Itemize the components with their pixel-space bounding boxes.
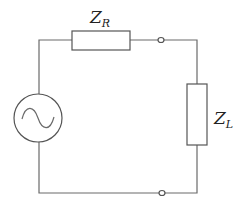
wire-left-top [39,40,72,94]
wire-right-bottom [39,142,197,193]
label-zr: ZR [90,9,110,29]
circuit-diagram [0,0,240,202]
impedance-zr [72,31,130,50]
label-zl-sub: L [226,118,233,131]
label-zl-main: Z [214,108,226,128]
label-zr-sub: R [102,17,110,30]
label-zr-main: Z [90,7,102,27]
label-zl: ZL [214,110,233,130]
terminal-top [158,38,164,43]
terminal-bottom [159,191,165,196]
impedance-zl [187,84,207,145]
wire-top-right [130,40,197,84]
